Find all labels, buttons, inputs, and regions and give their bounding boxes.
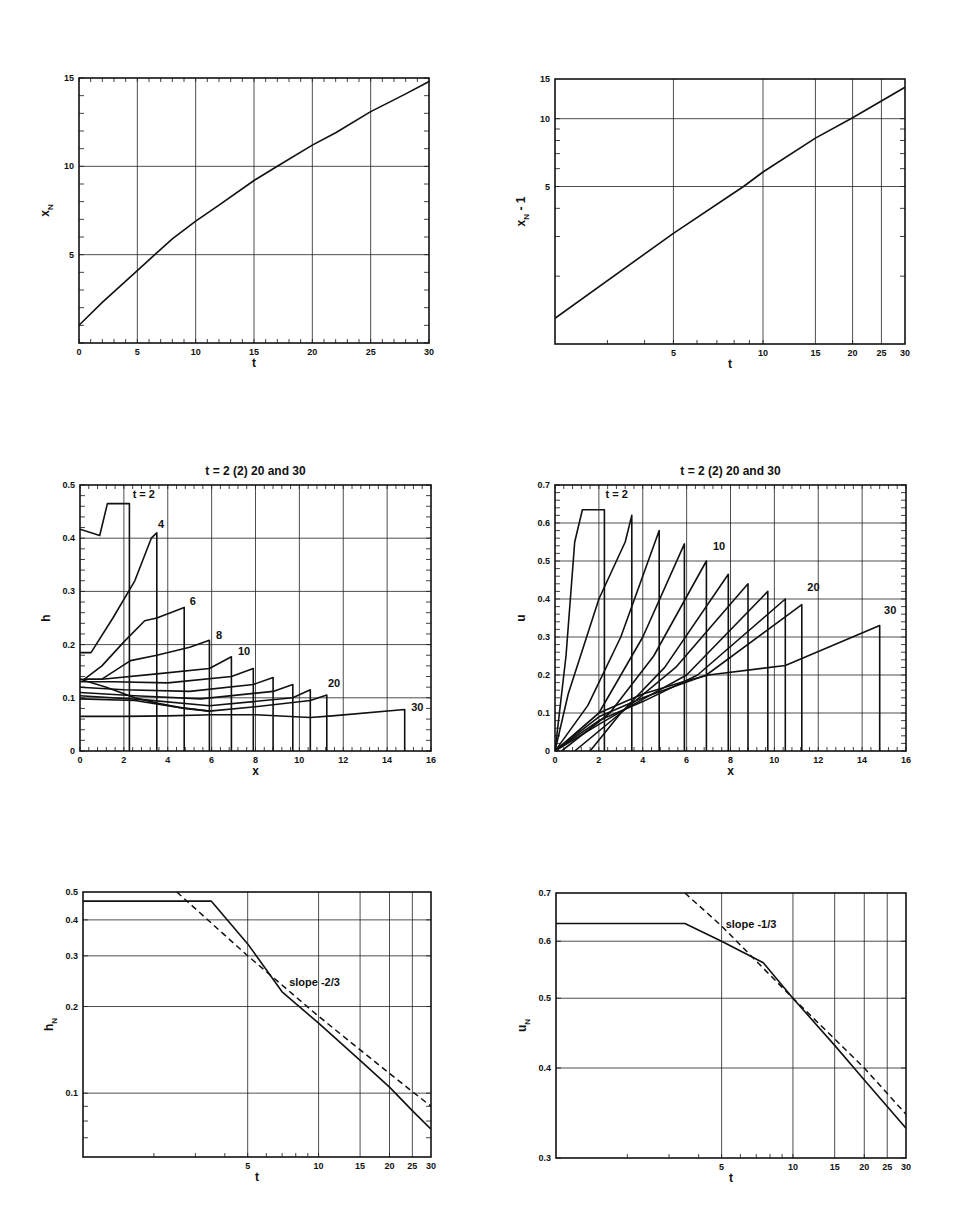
series-line (685, 893, 906, 1114)
y-tick-label: 0.5 (62, 480, 75, 490)
x-axis-label: t (255, 1170, 259, 1184)
x-tick-label: 25 (876, 348, 886, 358)
x-tick-label: 20 (385, 1161, 395, 1171)
chart-u-vs-x: 024681012141600.10.20.30.40.50.60.7t = 2… (514, 464, 911, 778)
x-tick-label: 16 (426, 755, 436, 765)
curve-annotation: 10 (238, 645, 250, 657)
y-axis-label: xN (38, 204, 55, 217)
x-tick-label: 2 (121, 755, 126, 765)
x-tick-label: 6 (209, 755, 214, 765)
chart-xN-vs-t: 05101520253051015txN (38, 73, 434, 370)
curve-annotation: 6 (190, 595, 196, 607)
y-tick-label: 0.2 (65, 1002, 78, 1012)
gridlines (83, 892, 431, 1157)
y-axis-label: hN (42, 1018, 59, 1031)
x-axis-label: x (727, 764, 734, 778)
y-tick-label: 0.2 (62, 640, 75, 650)
y-tick-label: 5 (69, 250, 74, 260)
x-tick-label: 0 (76, 347, 81, 357)
x-tick-label: 5 (719, 1162, 724, 1172)
gridlines (555, 485, 906, 751)
chart-title: t = 2 (2) 20 and 30 (680, 464, 781, 478)
y-tick-label: 10 (540, 114, 550, 124)
chart-uN-loglog: 510152025300.30.40.50.60.7slope -1/3tuN (515, 888, 911, 1185)
x-tick-label: 10 (788, 1162, 798, 1172)
x-tick-label: 20 (307, 347, 317, 357)
y-tick-label: 0 (70, 746, 75, 756)
y-tick-label: 0.6 (537, 518, 550, 528)
y-axis-label: uN (515, 1019, 532, 1032)
series-line (555, 544, 684, 751)
x-axis-label: t (729, 1171, 733, 1185)
x-tick-label: 10 (769, 755, 779, 765)
curve-annotation: 30 (884, 604, 896, 616)
x-tick-label: 25 (407, 1161, 417, 1171)
curve-annotation: 20 (328, 677, 340, 689)
curve-annotation: 30 (411, 701, 423, 713)
y-tick-label: 0.2 (537, 670, 550, 680)
x-tick-label: 4 (165, 755, 170, 765)
x-tick-label: 10 (314, 1161, 324, 1171)
gridlines (556, 893, 906, 1158)
series-line (556, 924, 906, 1129)
x-tick-label: 20 (848, 348, 858, 358)
chart-h-vs-x: 024681012141600.10.20.30.40.5t = 2468102… (39, 464, 436, 778)
y-tick-label: 0.3 (538, 1153, 551, 1163)
x-axis-label: t (728, 357, 732, 371)
y-tick-label: 0.3 (65, 951, 78, 961)
plot-frame (556, 893, 906, 1158)
curve-annotation: t = 2 (133, 488, 155, 500)
x-tick-label: 10 (191, 347, 201, 357)
y-axis-label: u (514, 614, 528, 621)
y-tick-label: 0 (545, 746, 550, 756)
curve-annotation: t = 2 (605, 488, 627, 500)
figure-canvas: 05101520253051015txN 5101520253051015txN… (0, 0, 960, 1223)
series-line (555, 531, 659, 751)
y-axis-label: xN - 1 (514, 196, 531, 226)
y-tick-label: 5 (545, 182, 550, 192)
y-tick-label: 15 (64, 73, 74, 83)
series-line (80, 504, 129, 751)
x-tick-label: 5 (135, 347, 140, 357)
x-tick-label: 15 (830, 1162, 840, 1172)
y-tick-label: 0.5 (538, 993, 551, 1003)
y-tick-label: 0.7 (537, 480, 550, 490)
x-tick-label: 14 (857, 755, 867, 765)
y-tick-label: 0.4 (65, 915, 78, 925)
x-axis-label: x (252, 764, 259, 778)
chart-hN-loglog: 510152025300.10.20.30.40.5slope -2/3thN (42, 887, 436, 1184)
series-group (80, 504, 405, 751)
y-tick-label: 0.5 (65, 887, 78, 897)
x-tick-label: 10 (294, 755, 304, 765)
y-axis-label: h (39, 614, 53, 621)
series-line (80, 679, 209, 711)
series-line (80, 695, 327, 751)
gridlines (79, 78, 429, 343)
x-tick-label: 5 (245, 1161, 250, 1171)
x-tick-label: 20 (859, 1162, 869, 1172)
x-tick-label: 25 (366, 347, 376, 357)
series-line (80, 533, 157, 751)
x-tick-label: 2 (596, 755, 601, 765)
y-tick-label: 0.4 (537, 594, 550, 604)
y-tick-label: 10 (64, 161, 74, 171)
y-tick-label: 15 (540, 74, 550, 84)
x-tick-label: 15 (810, 348, 820, 358)
curve-annotation: 4 (158, 518, 165, 530)
x-axis-label: t (252, 356, 256, 370)
y-tick-label: 0.5 (537, 556, 550, 566)
curve-annotation: slope -1/3 (726, 918, 777, 930)
curve-annotation: slope -2/3 (289, 976, 340, 988)
curve-annotation: 8 (216, 629, 222, 641)
series-line (83, 901, 431, 1129)
y-tick-label: 0.3 (62, 586, 75, 596)
x-tick-label: 4 (640, 755, 645, 765)
y-tick-label: 0.3 (537, 632, 550, 642)
x-tick-label: 15 (355, 1161, 365, 1171)
x-tick-label: 25 (882, 1162, 892, 1172)
series-line (80, 685, 293, 752)
series-line (590, 584, 748, 751)
chart-xN-minus-1-loglog: 5101520253051015txN - 1 (514, 74, 910, 371)
x-tick-label: 30 (424, 347, 434, 357)
x-tick-label: 12 (813, 755, 823, 765)
